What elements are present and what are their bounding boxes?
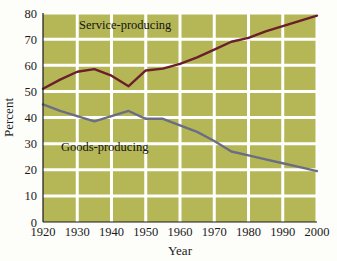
y-axis-tick-labels: 01020304050607080: [25, 7, 38, 230]
employment-share-line-chart: 0102030405060708019201930194019501960197…: [0, 0, 337, 261]
y-tick-label: 20: [25, 163, 38, 177]
x-tick-label: 1950: [133, 225, 158, 239]
y-tick-label: 70: [25, 33, 38, 47]
y-axis-title: Percent: [1, 98, 16, 137]
series-annotation-label: Goods-producing: [61, 140, 149, 154]
x-tick-label: 1920: [31, 225, 56, 239]
x-tick-label: 1960: [168, 225, 193, 239]
y-tick-label: 60: [25, 59, 38, 73]
x-tick-label: 1990: [270, 225, 295, 239]
x-tick-label: 1970: [202, 225, 227, 239]
series-annotation-label: Service-producing: [79, 18, 172, 32]
y-tick-label: 10: [25, 189, 38, 203]
x-tick-label: 1930: [65, 225, 90, 239]
x-tick-label: 1980: [236, 225, 261, 239]
chart-figure: 0102030405060708019201930194019501960197…: [0, 0, 337, 261]
y-tick-label: 30: [25, 137, 38, 151]
y-tick-label: 40: [25, 111, 38, 125]
x-tick-label: 1940: [99, 225, 124, 239]
y-tick-label: 50: [25, 85, 38, 99]
y-tick-label: 80: [25, 7, 38, 21]
x-tick-label: 2000: [305, 225, 330, 239]
x-axis-title: Year: [168, 243, 193, 258]
x-axis-tick-labels: 192019301940195019601970198019902000: [31, 225, 330, 239]
